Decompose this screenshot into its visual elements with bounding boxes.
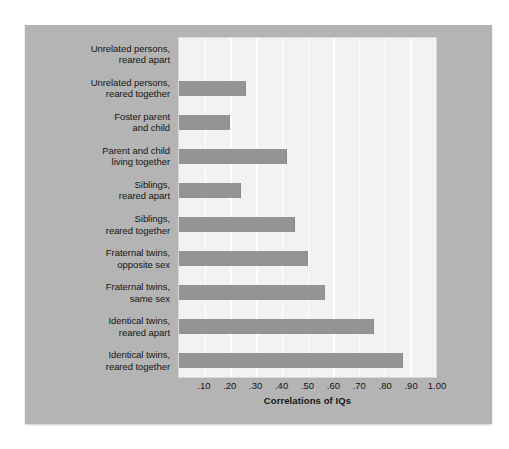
category-label-line: Siblings,: [135, 213, 170, 224]
x-axis-title: Correlations of IQs: [178, 395, 437, 406]
category-label: Identical twins,reared apart: [25, 310, 177, 344]
bar: [179, 183, 241, 198]
x-tick-label: .20: [223, 380, 236, 391]
bar: [179, 285, 325, 300]
bar: [179, 251, 308, 266]
category-label: Unrelated persons,reared together: [25, 71, 177, 105]
category-axis: Unrelated persons,reared apartUnrelated …: [25, 37, 177, 378]
bar: [179, 115, 230, 130]
category-label-line: reared apart: [119, 190, 170, 201]
bar: [179, 217, 295, 232]
category-label-line: Identical twins,: [108, 349, 170, 360]
bar-row: [179, 106, 436, 140]
category-label-line: Unrelated persons,: [91, 43, 170, 54]
bar-row: [179, 241, 436, 275]
category-label-line: Fraternal twins,: [106, 247, 170, 258]
category-label-line: reared together: [106, 88, 170, 99]
bar-row: [179, 309, 436, 343]
x-tick-label: .50: [301, 380, 314, 391]
category-label: Fraternal twins,opposite sex: [25, 242, 177, 276]
category-label-line: Foster parent: [114, 111, 170, 122]
bar-row: [179, 208, 436, 242]
category-label-line: reared apart: [119, 327, 170, 338]
category-label-line: reared together: [106, 361, 170, 372]
category-label: Siblings,reared apart: [25, 173, 177, 207]
category-label-line: reared together: [106, 225, 170, 236]
category-label-line: Identical twins,: [108, 315, 170, 326]
category-label-line: reared apart: [119, 54, 170, 65]
category-label-line: Fraternal twins,: [106, 281, 170, 292]
category-label: Unrelated persons,reared apart: [25, 37, 177, 71]
x-tick-label: .10: [197, 380, 210, 391]
bar-row: [179, 72, 436, 106]
category-label-line: Unrelated persons,: [91, 77, 170, 88]
bars-layer: [179, 38, 436, 377]
value-axis: .10.20.30.40.50.60.70.80.901.00: [178, 380, 437, 394]
plot-area: [178, 37, 437, 378]
category-label: Siblings,reared together: [25, 207, 177, 241]
x-tick-label: .30: [249, 380, 262, 391]
category-label: Foster parentand child: [25, 105, 177, 139]
bar-row: [179, 343, 436, 377]
x-tick-label: .70: [353, 380, 366, 391]
bar: [179, 319, 374, 334]
x-tick-label: .60: [327, 380, 340, 391]
x-tick-label: .80: [379, 380, 392, 391]
category-label-line: living together: [112, 156, 170, 167]
x-tick-label: 1.00: [428, 380, 447, 391]
category-label: Fraternal twins,same sex: [25, 276, 177, 310]
figure-panel: Unrelated persons,reared apartUnrelated …: [25, 25, 492, 424]
category-label-line: and child: [132, 122, 170, 133]
bar: [179, 353, 403, 368]
gridline: [436, 38, 437, 377]
bar-row: [179, 275, 436, 309]
bar-row: [179, 38, 436, 72]
category-label-line: Siblings,: [135, 179, 170, 190]
bar: [179, 149, 287, 164]
bar-row: [179, 140, 436, 174]
bar-chart: Unrelated persons,reared apartUnrelated …: [25, 25, 492, 424]
category-label-line: same sex: [130, 293, 170, 304]
category-label: Parent and childliving together: [25, 139, 177, 173]
category-label-line: Parent and child: [102, 145, 170, 156]
x-tick-label: .90: [404, 380, 417, 391]
bar: [179, 81, 246, 96]
category-label-line: opposite sex: [117, 259, 170, 270]
bar-row: [179, 174, 436, 208]
x-tick-label: .40: [275, 380, 288, 391]
category-label: Identical twins,reared together: [25, 344, 177, 378]
